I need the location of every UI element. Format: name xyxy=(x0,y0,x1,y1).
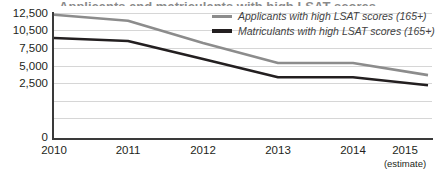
line-chart: Applicants and matriculants with high LS… xyxy=(0,0,435,173)
legend-swatch-applicants xyxy=(212,15,232,18)
legend-label-applicants: Applicants with high LSAT scores (165+) xyxy=(238,11,427,22)
legend-label-matriculants: Matriculants with high LSAT scores (165+… xyxy=(238,26,435,37)
series-line-matriculants xyxy=(54,38,428,85)
x-tick-label-2011: 2011 xyxy=(98,144,158,158)
chart-legend: Applicants with high LSAT scores (165+) … xyxy=(212,9,435,39)
x-tick-label-2013: 2013 xyxy=(248,144,308,158)
x-tick-label-2012: 2012 xyxy=(173,144,233,158)
x-tick-text: 2015 xyxy=(392,144,418,156)
x-tick-text: 2014 xyxy=(340,144,366,156)
x-tick-text: 2010 xyxy=(41,144,67,156)
legend-item-matriculants: Matriculants with high LSAT scores (165+… xyxy=(212,24,435,38)
x-tick-sublabel: (estimate) xyxy=(375,158,435,169)
legend-swatch-matriculants xyxy=(212,29,232,32)
x-tick-label-2010: 2010 xyxy=(24,144,84,158)
x-tick-text: 2012 xyxy=(190,144,216,156)
legend-item-applicants: Applicants with high LSAT scores (165+) xyxy=(212,9,435,23)
x-tick-text: 2011 xyxy=(116,144,141,156)
x-tick-label-2015: 2015 (estimate) xyxy=(375,144,435,169)
x-tick-text: 2013 xyxy=(265,144,291,156)
x-tick-label-2014: 2014 xyxy=(323,144,383,158)
